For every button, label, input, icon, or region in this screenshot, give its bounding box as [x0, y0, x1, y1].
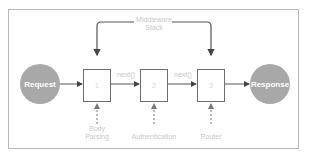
request-node: Request — [20, 64, 60, 104]
label-body-parsing-line2: Parsing — [72, 133, 122, 141]
edge-label-next-1: next() — [113, 71, 139, 79]
response-node: Response — [250, 64, 290, 104]
stack-title-line2: Stack — [128, 24, 180, 32]
middleware-box-3: 3 — [197, 69, 225, 102]
stack-title-line1: Middleware — [128, 16, 180, 24]
label-body-parsing: Body Parsing — [72, 125, 122, 141]
edge-label-next-2: next() — [170, 71, 196, 79]
middleware-box-1: 1 — [83, 69, 111, 102]
stack-title: Middleware Stack — [128, 16, 180, 32]
label-body-parsing-line1: Body — [72, 125, 122, 133]
label-router: Router — [191, 133, 231, 141]
middleware-box-2: 2 — [140, 69, 168, 102]
label-authentication: Authentication — [124, 133, 184, 141]
